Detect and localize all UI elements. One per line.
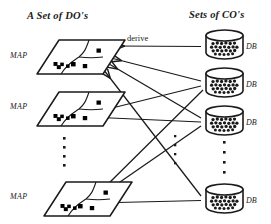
- arrow-db3-to-map2: [100, 118, 201, 123]
- map-group-2: [37, 92, 125, 126]
- figure-do-co-derive: A Set of DO's Sets of CO's derive MAP MA…: [0, 0, 271, 224]
- db-group-4: [206, 184, 243, 213]
- arrow-db2-to-map1: [113, 59, 201, 82]
- ellipsis-right-column: [223, 141, 226, 174]
- map-group-1: [37, 40, 125, 74]
- ellipsis-left-column: [63, 137, 66, 167]
- arrow-db1-to-map1: [116, 46, 201, 47]
- diagram-canvas: [0, 0, 271, 224]
- db-group-1: [206, 30, 243, 59]
- db-group-3: [206, 106, 243, 135]
- ellipsis-middle-column: [174, 135, 176, 164]
- derive-arrows: [96, 46, 203, 203]
- map-group-3: [44, 182, 132, 216]
- db-group-2: [206, 68, 243, 97]
